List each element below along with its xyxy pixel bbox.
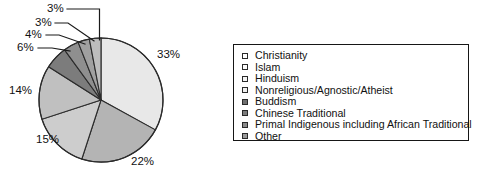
slice-label-33: 33% [157,48,180,60]
legend-item-label: Christianity [255,50,307,61]
slice-label-15: 15% [36,133,59,145]
legend-swatch-icon [242,99,248,105]
slice-label-3-other: 3% [47,2,64,14]
legend-swatch-icon [242,122,248,128]
legend-swatch-icon [242,64,248,70]
slice-label-6: 6% [17,41,34,53]
legend-item-label: Hinduism [255,73,299,84]
legend-item-buddism[interactable]: Buddism [242,96,464,107]
pie-chart-figure: 33% 22% 15% 14% 6% 4% 3% 3% Christianity… [0,0,484,179]
legend-swatch-icon [242,87,248,93]
legend-item-label: Nonreligious/Agnostic/Atheist [255,85,393,96]
leader-line-other [67,9,100,40]
legend-swatch-icon [242,110,248,116]
slice-label-3-primal: 3% [35,16,52,28]
legend-list: Christianity Islam Hinduism Nonreligious… [242,50,464,142]
legend-item-label: Primal Indigenous including African Trad… [255,119,472,130]
legend-item-label: Islam [255,62,280,73]
legend: Christianity Islam Hinduism Nonreligious… [233,44,469,141]
legend-item-christianity[interactable]: Christianity [242,50,464,61]
legend-item-primal-indigenous[interactable]: Primal Indigenous including African Trad… [242,119,464,130]
legend-item-chinese-traditional[interactable]: Chinese Traditional [242,107,464,118]
legend-swatch-icon [242,53,248,59]
slice-label-4: 4% [25,28,42,40]
legend-item-islam[interactable]: Islam [242,61,464,72]
legend-item-nonreligious[interactable]: Nonreligious/Agnostic/Atheist [242,84,464,95]
pie-plot-area: 33% 22% 15% 14% 6% 4% 3% 3% [0,0,232,179]
slice-label-14: 14% [9,84,32,96]
legend-item-hinduism[interactable]: Hinduism [242,73,464,84]
legend-item-other[interactable]: Other [242,130,464,141]
legend-item-label: Buddism [255,96,296,107]
legend-swatch-icon [242,133,248,139]
legend-item-label: Other [255,131,282,142]
leader-line-primal [55,23,94,41]
legend-item-label: Chinese Traditional [255,108,346,119]
slice-label-22: 22% [131,155,154,167]
legend-swatch-icon [242,76,248,82]
